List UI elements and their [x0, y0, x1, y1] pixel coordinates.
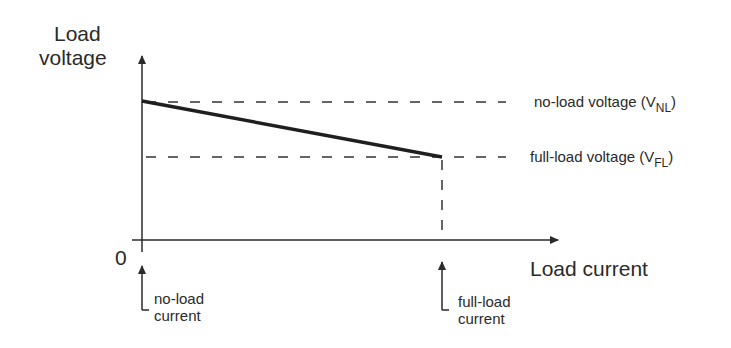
no-load-voltage-subscript: NL	[656, 101, 671, 115]
no-load-current-arrow-icon	[142, 266, 149, 310]
no-load-current-line1: no-load	[154, 290, 204, 307]
full-load-voltage-close: )	[668, 148, 673, 165]
regulation-line	[142, 101, 442, 157]
full-load-voltage-text: full-load voltage (V	[530, 148, 654, 165]
full-load-voltage-subscript: FL	[654, 156, 668, 170]
no-load-voltage-label: no-load voltage (VNL)	[534, 93, 676, 117]
full-load-current-line1: full-load	[458, 293, 511, 310]
full-load-current-line2: current	[458, 310, 511, 327]
no-load-current-label: no-load current	[154, 290, 204, 324]
full-load-voltage-label: full-load voltage (VFL)	[530, 148, 673, 172]
regulation-graph	[0, 0, 731, 348]
no-load-current-line2: current	[154, 307, 204, 324]
origin-label: 0	[115, 246, 127, 270]
full-load-current-label: full-load current	[458, 293, 511, 327]
no-load-voltage-close: )	[671, 93, 676, 110]
full-load-current-arrow-icon	[442, 262, 449, 310]
no-load-voltage-text: no-load voltage (V	[534, 93, 656, 110]
y-axis-title-line1: Load	[48, 22, 107, 46]
y-axis-title-line2: voltage	[39, 46, 107, 70]
x-axis-title: Load current	[530, 257, 648, 281]
y-axis-title: Load voltage	[48, 22, 107, 70]
